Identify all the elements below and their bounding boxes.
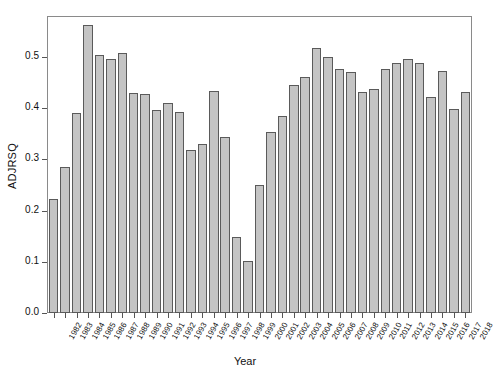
bar [449, 109, 459, 313]
x-axis-ticks [47, 313, 472, 321]
x-tick-mark [305, 313, 306, 318]
x-tick-mark [362, 313, 363, 318]
bar [323, 57, 333, 313]
x-tick-mark [317, 313, 318, 318]
y-axis-tick: 0.2 [0, 211, 47, 212]
x-tick-mark [454, 313, 455, 318]
x-tick-mark [157, 313, 158, 318]
bar [300, 77, 310, 313]
bar [438, 71, 448, 313]
x-tick-mark [88, 313, 89, 318]
y-tick-label: 0.2 [25, 204, 39, 215]
x-tick-mark [340, 313, 341, 318]
x-tick-mark [99, 313, 100, 318]
x-tick-mark [54, 313, 55, 318]
x-tick-mark [420, 313, 421, 318]
bar [278, 116, 288, 313]
bar [266, 132, 276, 313]
bar [289, 85, 299, 313]
bar [346, 72, 356, 313]
y-tick-label: 0.5 [25, 50, 39, 61]
x-axis-label: Year [0, 355, 490, 367]
x-tick-mark [385, 313, 386, 318]
y-axis-tick: 0.5 [0, 57, 47, 58]
y-tick-label: 0.0 [25, 306, 39, 317]
bar [60, 167, 70, 313]
bar [118, 53, 128, 313]
x-tick-mark [431, 313, 432, 318]
bar [312, 48, 322, 313]
x-tick-mark [351, 313, 352, 318]
bar [152, 110, 162, 313]
x-tick-mark [134, 313, 135, 318]
x-tick-mark [77, 313, 78, 318]
bar [186, 150, 196, 313]
y-axis-tick: 0.3 [0, 159, 47, 160]
bar [415, 63, 425, 313]
bar [232, 237, 242, 313]
bar-series [47, 16, 472, 313]
x-tick-mark [179, 313, 180, 318]
bar [403, 59, 413, 313]
y-tick-label: 0.1 [25, 255, 39, 266]
x-tick-mark [408, 313, 409, 318]
bar [220, 137, 230, 313]
x-tick-mark [374, 313, 375, 318]
bar [175, 112, 185, 313]
x-axis-tick-labels: 1982198319841985198619871988198919901991… [47, 321, 472, 355]
bar [369, 89, 379, 313]
bar [426, 97, 436, 313]
x-tick-mark [282, 313, 283, 318]
x-tick-mark [168, 313, 169, 318]
bar [163, 103, 173, 313]
bar [72, 113, 82, 313]
x-tick-mark [271, 313, 272, 318]
y-axis-tick: 0.1 [0, 262, 47, 263]
x-tick-mark [214, 313, 215, 318]
bar [255, 185, 265, 313]
bar [358, 92, 368, 313]
bar [49, 199, 59, 313]
bar [392, 63, 402, 313]
bar [95, 55, 105, 313]
bar [335, 69, 345, 313]
x-tick-mark [294, 313, 295, 318]
x-tick-mark [328, 313, 329, 318]
bar [198, 144, 208, 313]
x-tick-mark [237, 313, 238, 318]
x-tick-mark [202, 313, 203, 318]
x-tick-mark [465, 313, 466, 318]
y-axis-label: ADJRSQ [6, 121, 18, 211]
bar [461, 92, 471, 313]
x-tick-mark [397, 313, 398, 318]
x-tick-mark [248, 313, 249, 318]
bar [381, 69, 391, 313]
bar [209, 91, 219, 313]
bar [140, 94, 150, 313]
x-tick-mark [442, 313, 443, 318]
x-tick-mark [145, 313, 146, 318]
y-tick-label: 0.3 [25, 152, 39, 163]
y-axis-tick: 0.0 [0, 313, 47, 314]
bar [106, 59, 116, 313]
x-tick-mark [260, 313, 261, 318]
bar [129, 93, 139, 313]
y-tick-label: 0.4 [25, 101, 39, 112]
x-tick-mark [225, 313, 226, 318]
x-tick-mark [122, 313, 123, 318]
x-tick-mark [111, 313, 112, 318]
x-tick-mark [65, 313, 66, 318]
bar [243, 261, 253, 313]
x-tick-mark [191, 313, 192, 318]
bar [83, 25, 93, 313]
y-axis-tick: 0.4 [0, 108, 47, 109]
